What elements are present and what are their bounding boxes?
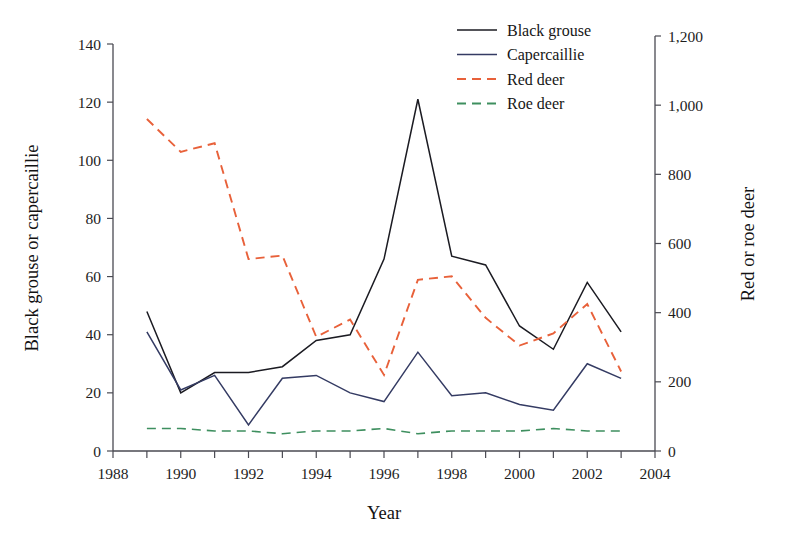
axis-lines (113, 36, 655, 451)
right-tick-label: 1,200 (668, 28, 703, 45)
left-tick-label: 60 (86, 268, 102, 285)
series-line-capercaillie (147, 332, 621, 425)
x-axis-title: Year (367, 503, 401, 523)
x-tick-label: 2004 (640, 465, 671, 482)
right-tick-label: 0 (668, 443, 676, 460)
right-tick-label: 800 (668, 166, 692, 183)
chart-container: 020406080100120140 02004006008001,0001,2… (0, 0, 787, 550)
series-line-black-grouse (147, 99, 621, 393)
x-tick-label: 1994 (301, 465, 332, 482)
x-axis-ticks (113, 451, 655, 458)
x-tick-label: 1996 (369, 465, 400, 482)
left-axis-ticks (107, 44, 113, 451)
right-axis-tick-labels: 02004006008001,0001,200 (668, 28, 703, 460)
x-tick-label: 1992 (233, 465, 264, 482)
legend-label-black-grouse: Black grouse (507, 22, 591, 40)
x-tick-label: 1998 (436, 465, 467, 482)
right-tick-label: 1,000 (668, 97, 703, 114)
legend-label-roe-deer: Roe deer (507, 95, 565, 112)
x-tick-label: 1990 (165, 465, 196, 482)
y-axis-title: Black grouse or capercaillie (22, 145, 42, 352)
chart-legend: Black grouseCapercaillieRed deerRoe deer (457, 22, 591, 113)
right-tick-label: 600 (668, 235, 692, 252)
x-tick-label: 2002 (572, 465, 603, 482)
left-tick-label: 40 (86, 326, 102, 343)
left-axis-tick-labels: 020406080100120140 (78, 36, 102, 460)
left-tick-label: 140 (78, 36, 102, 53)
right-axis-ticks (655, 36, 661, 451)
legend-label-red-deer: Red deer (507, 71, 565, 88)
legend-label-capercaillie: Capercaillie (507, 46, 584, 64)
x-tick-label: 2000 (504, 465, 535, 482)
left-tick-label: 20 (86, 384, 102, 401)
left-tick-label: 0 (93, 443, 101, 460)
line-chart: 020406080100120140 02004006008001,0001,2… (0, 0, 787, 550)
left-tick-label: 80 (86, 210, 102, 227)
series-line-red-deer (147, 119, 621, 375)
y2-axis-title: Red or roe deer (738, 187, 758, 302)
x-axis-tick-labels: 198819901992199419961998200020022004 (98, 465, 671, 482)
series-line-roe-deer (147, 429, 621, 434)
data-series-group (147, 99, 621, 433)
left-tick-label: 100 (78, 152, 102, 169)
right-tick-label: 200 (668, 373, 692, 390)
right-tick-label: 400 (668, 304, 692, 321)
x-tick-label: 1988 (98, 465, 129, 482)
left-tick-label: 120 (78, 94, 102, 111)
